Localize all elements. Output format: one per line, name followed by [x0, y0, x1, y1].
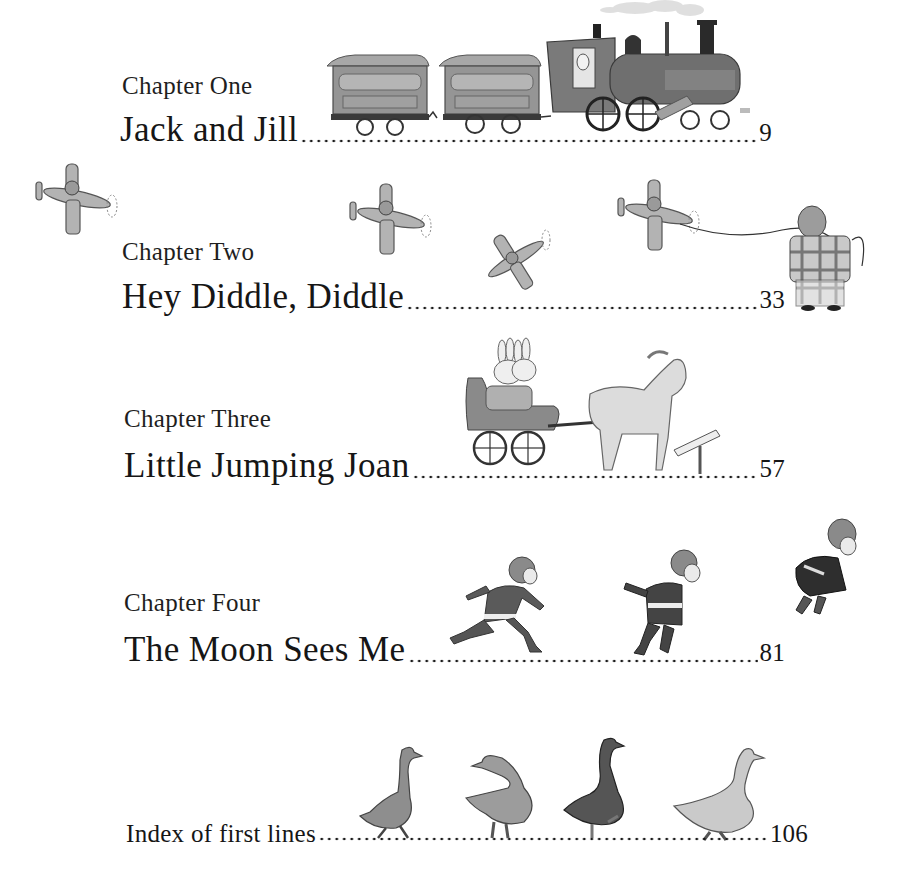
jumping-boy-illustration: [790, 516, 870, 621]
toc-page-number: 81: [760, 639, 785, 667]
toc-title: The Moon Sees Me: [124, 630, 406, 670]
chapter-four-label: Chapter Four: [124, 589, 260, 617]
train-illustration: [325, 0, 765, 140]
chapter-one-label: Chapter One: [122, 72, 252, 100]
airplane-illustration: [346, 180, 434, 258]
dot-leader: [412, 475, 758, 479]
chapter-three-label: Chapter Three: [124, 405, 271, 433]
dot-leader: [318, 837, 768, 841]
dot-leader: [408, 659, 758, 663]
dot-leader: [406, 306, 757, 310]
chapter-two-label: Chapter Two: [122, 238, 254, 266]
toc-title: Jack and Jill: [120, 110, 298, 150]
toc-page-number: 57: [760, 455, 785, 483]
toc-entry-little-jumping-joan[interactable]: Little Jumping Joan 57: [124, 446, 785, 486]
toc-title: Hey Diddle, Diddle: [122, 277, 404, 317]
toc-entry-hey-diddle-diddle[interactable]: Hey Diddle, Diddle 33: [122, 277, 785, 317]
toc-title: Index of first lines: [126, 820, 316, 848]
toc-entry-index-of-first-lines[interactable]: Index of first lines 106: [126, 820, 808, 848]
toc-entry-the-moon-sees-me[interactable]: The Moon Sees Me 81: [124, 630, 785, 670]
airplane-illustration: [32, 160, 120, 238]
toc-page-number: 33: [760, 286, 785, 314]
toc-page-number: 106: [770, 820, 808, 848]
toc-title: Little Jumping Joan: [124, 446, 410, 486]
